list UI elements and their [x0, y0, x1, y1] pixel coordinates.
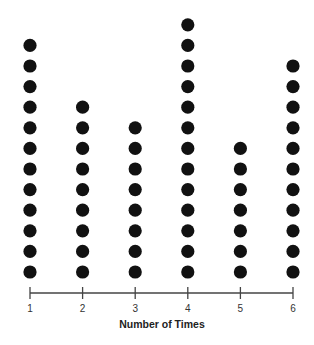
- data-dot: [286, 265, 299, 278]
- data-dot: [234, 162, 247, 175]
- dot-column-3: [129, 121, 142, 278]
- x-tick-label: 3: [132, 303, 138, 314]
- data-dot: [23, 245, 36, 258]
- data-dot: [286, 162, 299, 175]
- data-dot: [286, 183, 299, 196]
- data-dot: [286, 245, 299, 258]
- data-dot: [23, 121, 36, 134]
- data-dot: [129, 265, 142, 278]
- dot-column-1: [23, 39, 36, 279]
- data-dot: [23, 101, 36, 114]
- data-dot: [234, 245, 247, 258]
- data-dot: [23, 59, 36, 72]
- x-axis-ticks: 123456: [27, 287, 296, 314]
- data-dot: [23, 183, 36, 196]
- data-dot: [234, 142, 247, 155]
- data-dot: [76, 265, 89, 278]
- data-dot: [234, 265, 247, 278]
- data-dot: [286, 80, 299, 93]
- data-dot: [129, 183, 142, 196]
- data-dot: [181, 80, 194, 93]
- data-dot: [129, 245, 142, 258]
- data-dot: [234, 183, 247, 196]
- data-dot: [76, 204, 89, 217]
- data-dot: [76, 183, 89, 196]
- data-dot: [181, 265, 194, 278]
- data-dot: [76, 101, 89, 114]
- data-dot: [23, 80, 36, 93]
- x-axis-title: Number of Times: [119, 318, 205, 330]
- data-dot: [76, 142, 89, 155]
- data-dot: [234, 224, 247, 237]
- data-dot: [23, 204, 36, 217]
- dot-column-4: [181, 18, 194, 278]
- data-dot: [129, 204, 142, 217]
- x-tick-label: 5: [238, 303, 244, 314]
- data-dot: [286, 204, 299, 217]
- data-dot: [76, 162, 89, 175]
- data-dot: [286, 121, 299, 134]
- data-dot: [129, 224, 142, 237]
- data-dot: [23, 224, 36, 237]
- data-dot: [181, 224, 194, 237]
- data-dot: [181, 204, 194, 217]
- data-dot: [286, 224, 299, 237]
- dot-column-5: [234, 142, 247, 279]
- dot-column-2: [76, 101, 89, 279]
- dot-columns: [23, 18, 299, 278]
- data-dot: [23, 162, 36, 175]
- data-dot: [181, 39, 194, 52]
- data-dot: [181, 183, 194, 196]
- x-tick-label: 4: [185, 303, 191, 314]
- data-dot: [181, 18, 194, 31]
- data-dot: [129, 121, 142, 134]
- data-dot: [129, 162, 142, 175]
- data-dot: [181, 245, 194, 258]
- data-dot: [181, 162, 194, 175]
- data-dot: [286, 101, 299, 114]
- data-dot: [181, 101, 194, 114]
- data-dot: [76, 224, 89, 237]
- data-dot: [23, 265, 36, 278]
- data-dot: [286, 142, 299, 155]
- data-dot: [76, 245, 89, 258]
- data-dot: [181, 121, 194, 134]
- x-tick-label: 1: [27, 303, 33, 314]
- data-dot: [234, 204, 247, 217]
- x-tick-label: 6: [290, 303, 296, 314]
- data-dot: [23, 39, 36, 52]
- data-dot: [286, 59, 299, 72]
- data-dot: [181, 142, 194, 155]
- data-dot: [129, 142, 142, 155]
- data-dot: [23, 142, 36, 155]
- data-dot: [76, 121, 89, 134]
- x-tick-label: 2: [80, 303, 86, 314]
- dot-column-6: [286, 59, 299, 278]
- data-dot: [181, 59, 194, 72]
- dot-plot: 123456 Number of Times: [0, 0, 314, 345]
